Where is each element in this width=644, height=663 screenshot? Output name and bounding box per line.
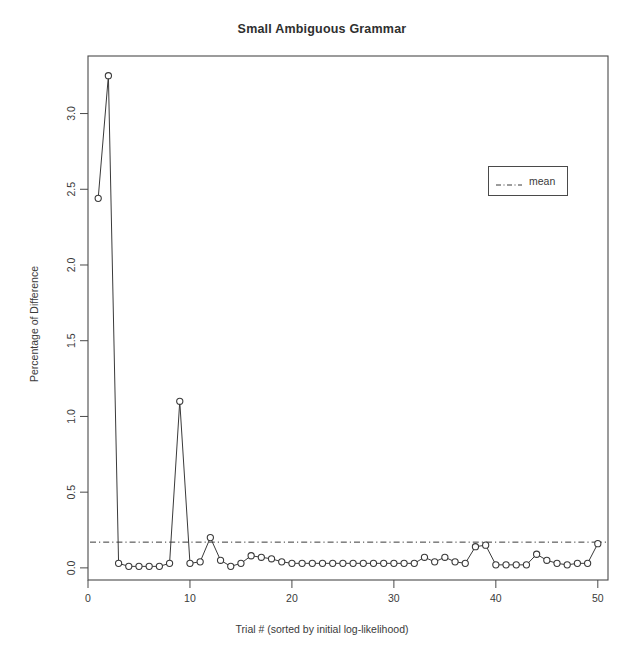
legend-item-mean: mean bbox=[489, 167, 567, 195]
data-point bbox=[238, 560, 244, 566]
data-point bbox=[391, 560, 397, 566]
plot-area: 010203040500.00.51.01.52.02.53.0 bbox=[0, 0, 644, 663]
data-point bbox=[126, 563, 132, 569]
data-point bbox=[340, 560, 346, 566]
data-point bbox=[564, 562, 570, 568]
data-point bbox=[421, 554, 427, 560]
y-tick-label: 1.0 bbox=[65, 409, 77, 424]
data-point bbox=[279, 559, 285, 565]
data-point bbox=[299, 560, 305, 566]
data-point bbox=[360, 560, 366, 566]
data-point bbox=[217, 557, 223, 563]
x-axis-label: Trial # (sorted by initial log-likelihoo… bbox=[0, 623, 644, 635]
data-point bbox=[544, 557, 550, 563]
data-point bbox=[95, 195, 101, 201]
data-point bbox=[574, 560, 580, 566]
y-tick-label: 0.0 bbox=[65, 560, 77, 575]
data-point bbox=[370, 560, 376, 566]
data-point bbox=[166, 560, 172, 566]
data-point bbox=[258, 554, 264, 560]
data-point bbox=[472, 544, 478, 550]
chart-figure: Small Ambiguous Grammar 010203040500.00.… bbox=[0, 0, 644, 663]
data-point bbox=[177, 398, 183, 404]
data-point bbox=[411, 560, 417, 566]
data-point bbox=[309, 560, 315, 566]
data-point bbox=[452, 559, 458, 565]
data-point bbox=[493, 562, 499, 568]
data-point bbox=[503, 562, 509, 568]
data-point bbox=[319, 560, 325, 566]
data-point bbox=[136, 563, 142, 569]
data-point bbox=[432, 559, 438, 565]
y-axis-label: Percentage of Difference bbox=[28, 224, 40, 424]
x-tick-label: 20 bbox=[286, 592, 298, 604]
data-point bbox=[268, 556, 274, 562]
data-point bbox=[483, 542, 489, 548]
legend-label-mean: mean bbox=[529, 175, 555, 187]
data-point bbox=[350, 560, 356, 566]
data-point bbox=[462, 560, 468, 566]
y-tick-label: 2.0 bbox=[65, 258, 77, 273]
data-point bbox=[534, 551, 540, 557]
x-tick-label: 10 bbox=[184, 592, 196, 604]
data-point bbox=[228, 563, 234, 569]
data-point bbox=[197, 559, 203, 565]
data-point bbox=[595, 541, 601, 547]
data-point bbox=[381, 560, 387, 566]
data-point bbox=[105, 73, 111, 79]
data-point bbox=[248, 553, 254, 559]
legend-dash-dot-line-icon bbox=[496, 176, 522, 186]
y-tick-label: 0.5 bbox=[65, 485, 77, 500]
x-tick-label: 30 bbox=[388, 592, 400, 604]
y-tick-label: 3.0 bbox=[65, 106, 77, 121]
data-point bbox=[523, 562, 529, 568]
legend: mean bbox=[488, 166, 568, 196]
y-tick-label: 2.5 bbox=[65, 182, 77, 197]
y-tick-label: 1.5 bbox=[65, 333, 77, 348]
data-point bbox=[330, 560, 336, 566]
x-tick-label: 50 bbox=[592, 592, 604, 604]
data-point bbox=[187, 560, 193, 566]
data-point bbox=[585, 560, 591, 566]
data-line bbox=[98, 76, 598, 567]
data-point bbox=[513, 562, 519, 568]
plot-frame bbox=[88, 56, 608, 580]
data-point bbox=[146, 563, 152, 569]
data-point bbox=[115, 560, 121, 566]
data-point bbox=[442, 554, 448, 560]
x-tick-label: 40 bbox=[490, 592, 502, 604]
data-point bbox=[401, 560, 407, 566]
x-tick-label: 0 bbox=[85, 592, 91, 604]
data-point bbox=[207, 534, 213, 540]
data-point bbox=[554, 560, 560, 566]
data-point bbox=[289, 560, 295, 566]
data-point bbox=[156, 563, 162, 569]
